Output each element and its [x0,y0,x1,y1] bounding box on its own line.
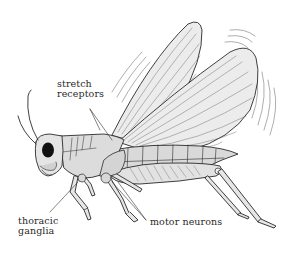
label-stretch-line2: receptors [57,89,104,99]
label-motor-neurons: motor neurons [150,217,222,227]
compound-eye [42,143,54,158]
label-motor-line1: motor neurons [150,217,222,227]
label-thoracic-line2: ganglia [18,226,58,236]
antennae [18,90,38,144]
head [35,134,63,176]
label-thoracic-ganglia: thoracic ganglia [18,216,58,236]
leader-stretch-1 [90,109,100,130]
label-stretch-receptors: stretch receptors [57,79,104,99]
